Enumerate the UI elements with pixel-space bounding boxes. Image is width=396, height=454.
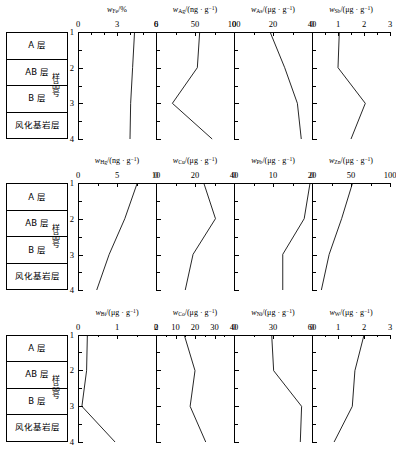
y-major-tick [78, 442, 83, 443]
y-axis-caption: 样品号 [50, 183, 62, 290]
y-tick-label: 3 [70, 99, 74, 108]
x-tick-labels: 02040 [234, 20, 312, 30]
x-tick-label: 3 [115, 20, 119, 29]
y-major-tick [312, 290, 317, 291]
x-tick-label: 0 [154, 323, 158, 332]
panel-axis-title: wCu/(μg · g−1) [156, 157, 234, 166]
x-tick-label: 50 [191, 20, 200, 29]
data-series-ag [156, 32, 234, 139]
y-tick-label: 2 [70, 366, 74, 375]
panel-bi: wBi/(μg · g−1)012 [78, 303, 156, 454]
y-major-tick [234, 290, 239, 291]
panel-axis-title: wBi/(μg · g−1) [78, 309, 156, 318]
x-tick-label: 0 [310, 171, 314, 180]
y-tick-label: 2 [70, 63, 74, 72]
panel-row-3: A 层AB 层B 层风化基岩层样品号1234wBi/(μg · g−1)012w… [0, 303, 394, 454]
data-series-hg [78, 183, 156, 290]
data-series-zn [312, 183, 390, 290]
x-tick-label: 30 [269, 323, 278, 332]
panel-pb: wPb/(μg · g−1)01020 [234, 151, 312, 302]
y-major-tick [78, 290, 83, 291]
y-tick-label: 1 [70, 179, 74, 188]
data-series-cu [156, 183, 234, 290]
x-major-tick [390, 335, 391, 339]
panel-axis-title: wNi/(μg · g−1) [234, 309, 312, 318]
x-tick-label: 0 [154, 20, 158, 29]
plot-area [312, 183, 390, 290]
panel-cu: wCu/(μg · g−1)02040 [156, 151, 234, 302]
panel-axis-title: wFe/% [78, 6, 156, 15]
y-major-tick [312, 139, 317, 140]
panel-axis-title: wAs/(μg · g−1) [234, 6, 312, 15]
data-series-ni [234, 335, 312, 442]
y-tick-label: 2 [70, 215, 74, 224]
x-tick-label: 3 [388, 20, 392, 29]
y-tick-label: 4 [70, 286, 74, 295]
x-tick-label: 0 [310, 20, 314, 29]
plot-area [156, 183, 234, 290]
panel-co: wCo/(μg · g−1)010203040 [156, 303, 234, 454]
panel-as: wAs/(μg · g−1)02040 [234, 0, 312, 151]
y-tick-label: 1 [70, 28, 74, 37]
x-major-tick [390, 32, 391, 36]
data-series-w [312, 335, 390, 442]
x-tick-label: 0 [76, 171, 80, 180]
x-tick-label: 5 [115, 171, 119, 180]
panel-axis-title: wPb/(μg · g−1) [234, 157, 312, 166]
data-series-sb [312, 32, 390, 139]
panel-zn: wZn/(μg · g−1)050100 [312, 151, 390, 302]
y-major-tick [156, 290, 161, 291]
panel-axis-title: wZn/(μg · g−1) [312, 157, 390, 166]
data-series-co [156, 335, 234, 442]
plot-area [78, 183, 156, 290]
x-tick-label: 1 [115, 323, 119, 332]
y-major-tick [312, 442, 317, 443]
x-tick-label: 3 [388, 323, 392, 332]
y-tick-label: 4 [70, 437, 74, 446]
x-tick-labels: 036 [78, 20, 156, 30]
x-tick-label: 0 [310, 323, 314, 332]
x-tick-label: 0 [76, 20, 80, 29]
x-tick-label: 20 [269, 20, 278, 29]
x-tick-label: 10 [171, 323, 180, 332]
panel-axis-title: wSb/(μg · g−1) [312, 6, 390, 15]
x-tick-label: 20 [191, 171, 200, 180]
x-tick-label: 0 [76, 323, 80, 332]
plot-area [78, 32, 156, 139]
x-tick-labels: 03060 [234, 323, 312, 333]
x-tick-labels: 0510 [78, 171, 156, 181]
y-tick-label: 1 [70, 330, 74, 339]
plot-area [312, 335, 390, 442]
data-series-as [234, 32, 312, 139]
y-tick-labels: 1234 [64, 335, 74, 442]
x-tick-label: 100 [384, 171, 396, 180]
y-major-tick [156, 139, 161, 140]
panel-sb: wSb/(μg · g−1)0123 [312, 0, 390, 151]
x-tick-labels: 02040 [156, 171, 234, 181]
plot-area [156, 335, 234, 442]
panel-row-2: A 层AB 层B 层风化基岩层样品号1234wHg/(ng · g−1)0510… [0, 151, 394, 302]
y-tick-label: 3 [70, 250, 74, 259]
x-tick-labels: 01020 [234, 171, 312, 181]
plot-area [234, 183, 312, 290]
y-major-tick [234, 442, 239, 443]
y-axis-caption: 样品号 [50, 335, 62, 442]
panel-ag: wAg/(ng · g−1)050100 [156, 0, 234, 151]
plot-area [78, 335, 156, 442]
panel-fe: wFe/%036 [78, 0, 156, 151]
x-tick-labels: 050100 [312, 171, 390, 181]
plot-area [234, 335, 312, 442]
data-series-bi [78, 335, 156, 442]
x-tick-label: 20 [191, 323, 200, 332]
plot-area [312, 32, 390, 139]
x-tick-labels: 0123 [312, 323, 390, 333]
panel-axis-title: wCo/(μg · g−1) [156, 309, 234, 318]
data-series-pb [234, 183, 312, 290]
x-tick-label: 0 [232, 323, 236, 332]
y-major-tick [78, 139, 83, 140]
x-tick-labels: 0123 [312, 20, 390, 30]
y-axis-caption: 样品号 [50, 32, 62, 139]
y-major-tick [234, 139, 239, 140]
y-major-tick [156, 442, 161, 443]
